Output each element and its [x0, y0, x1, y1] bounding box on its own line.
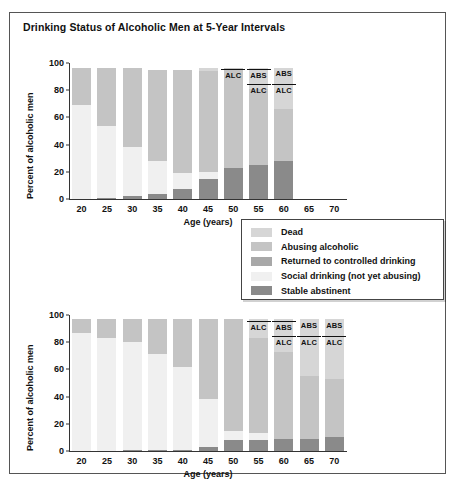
bar-segment [224, 68, 243, 167]
legend-label: Returned to controlled drinking [281, 256, 416, 266]
bar-segment [148, 319, 167, 354]
bar-segment [173, 173, 192, 189]
y-axis-tick-mark [66, 369, 69, 370]
legend-label: Dead [281, 227, 303, 237]
bar-segment [300, 376, 319, 439]
x-axis-line [69, 199, 347, 200]
bar-segment [199, 399, 218, 447]
bar-segment [199, 319, 218, 399]
bar-segment [199, 179, 218, 199]
y-axis-tick-label: 60 [54, 112, 64, 122]
bar-segment [148, 194, 167, 199]
x-axis-tick-label: 55 [254, 204, 264, 214]
bar-segment [97, 126, 116, 198]
bar-segment [199, 172, 218, 179]
bar-segment [72, 319, 91, 333]
alcoholic-annotation: ALC [322, 336, 346, 347]
bar-column [97, 63, 116, 199]
legend-item: Abusing alcoholic [242, 240, 443, 255]
bar-segment [72, 68, 91, 105]
bar-segment [224, 431, 243, 441]
legend-item: Social drinking (not yet abusing) [242, 269, 443, 284]
bar-segment [249, 338, 268, 433]
bar-segment [72, 333, 91, 451]
y-axis-line [69, 63, 70, 199]
legend-swatch [251, 286, 272, 295]
bar-column [148, 63, 167, 199]
x-axis-tick-label: 60 [279, 204, 289, 214]
y-axis-tick-label: 0 [59, 194, 64, 204]
x-axis-tick-label: 35 [152, 456, 162, 466]
bar-column [199, 63, 218, 199]
x-axis-line [69, 451, 347, 452]
upper-chart-panel: Percent of alcoholic men Age (years) 020… [69, 63, 347, 199]
bar-segment [97, 338, 116, 451]
bar-segment [274, 109, 293, 161]
legend-swatch [251, 257, 272, 266]
abstinent-annotation: ABS [272, 69, 296, 78]
bar-segment [274, 161, 293, 199]
bar-segment [148, 70, 167, 161]
bar-segment [199, 447, 218, 451]
lower-chart-panel: Percent of alcoholic men Age (years) 020… [69, 315, 347, 451]
bar-segment [97, 198, 116, 199]
x-axis-tick-label: 30 [127, 456, 137, 466]
legend-item: Returned to controlled drinking [242, 254, 443, 269]
bar-segment [199, 71, 218, 172]
y-axis-tick-mark [66, 396, 69, 397]
legend-label: Social drinking (not yet abusing) [281, 271, 421, 281]
y-axis-tick-mark [66, 117, 69, 118]
legend-item: Stable abstinent [242, 283, 443, 298]
y-axis-tick-mark [66, 90, 69, 91]
bar-segment [72, 105, 91, 199]
y-axis-tick-mark [66, 315, 69, 316]
legend-swatch [251, 242, 272, 251]
bar-segment [274, 439, 293, 451]
abstinent-annotation: ABS [297, 321, 321, 330]
x-axis-tick-label: 20 [77, 456, 87, 466]
y-axis-tick-mark [66, 451, 69, 452]
bar-segment [97, 319, 116, 338]
bar-segment [123, 319, 142, 342]
alcoholic-annotation: ALC [221, 69, 245, 80]
bar-column [72, 315, 91, 451]
bar-segment [224, 319, 243, 431]
bar-segment [224, 440, 243, 451]
y-axis-tick-mark [66, 423, 69, 424]
y-axis-tick-mark [66, 342, 69, 343]
x-axis-tick-label: 25 [102, 204, 112, 214]
x-axis-tick-label: 40 [178, 456, 188, 466]
bar-segment [173, 189, 192, 199]
abstinent-annotation: ABS [322, 321, 346, 330]
y-axis-tick-label: 80 [54, 337, 64, 347]
alcoholic-annotation: ALC [247, 84, 271, 95]
x-axis-tick-label: 40 [178, 204, 188, 214]
x-axis-tick-label: 45 [203, 204, 213, 214]
bar-segment [274, 352, 293, 439]
alcoholic-annotation: ALC [272, 336, 296, 347]
x-axis-tick-label: 60 [279, 456, 289, 466]
bar-segment [199, 68, 218, 71]
x-axis-tick-label: 35 [152, 204, 162, 214]
x-axis-tick-label: 70 [329, 204, 339, 214]
alcoholic-annotation: ALC [297, 336, 321, 347]
bar-column [123, 63, 142, 199]
bar-segment [123, 342, 142, 449]
bar-segment [173, 70, 192, 173]
bar-segment [325, 437, 344, 451]
x-axis-tick-label: 25 [102, 456, 112, 466]
abstinent-annotation: ABS [247, 69, 271, 80]
bar-segment [249, 89, 268, 165]
x-axis-tick-label: 20 [77, 204, 87, 214]
bar-segment [148, 450, 167, 451]
y-axis-tick-mark [66, 63, 69, 64]
legend-swatch [251, 228, 272, 237]
x-axis-tick-label: 65 [304, 204, 314, 214]
x-axis-tick-label: 50 [228, 204, 238, 214]
bar-column [199, 315, 218, 451]
bar-segment [123, 147, 142, 196]
abstinent-annotation: ABS [272, 321, 296, 332]
y-axis-tick-mark [66, 144, 69, 145]
bar-segment [123, 196, 142, 199]
page-title: Drinking Status of Alcoholic Men at 5-Ye… [23, 21, 285, 33]
